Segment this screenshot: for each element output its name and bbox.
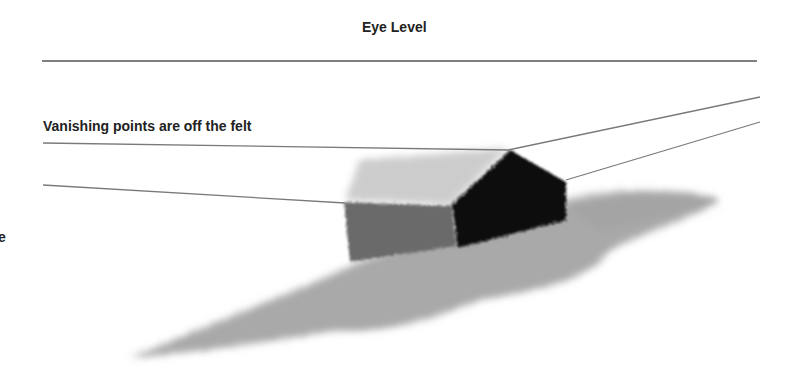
perspective-line-base-right bbox=[566, 122, 760, 180]
edge-text-fragment: e bbox=[0, 229, 6, 245]
perspective-line-roof-right bbox=[508, 97, 760, 150]
perspective-line-roof-left bbox=[43, 143, 508, 150]
perspective-line-base-left bbox=[43, 185, 345, 203]
diagram-canvas bbox=[0, 0, 803, 383]
vanishing-points-label: Vanishing points are off the felt bbox=[43, 118, 251, 134]
eye-level-label: Eye Level bbox=[362, 19, 427, 35]
